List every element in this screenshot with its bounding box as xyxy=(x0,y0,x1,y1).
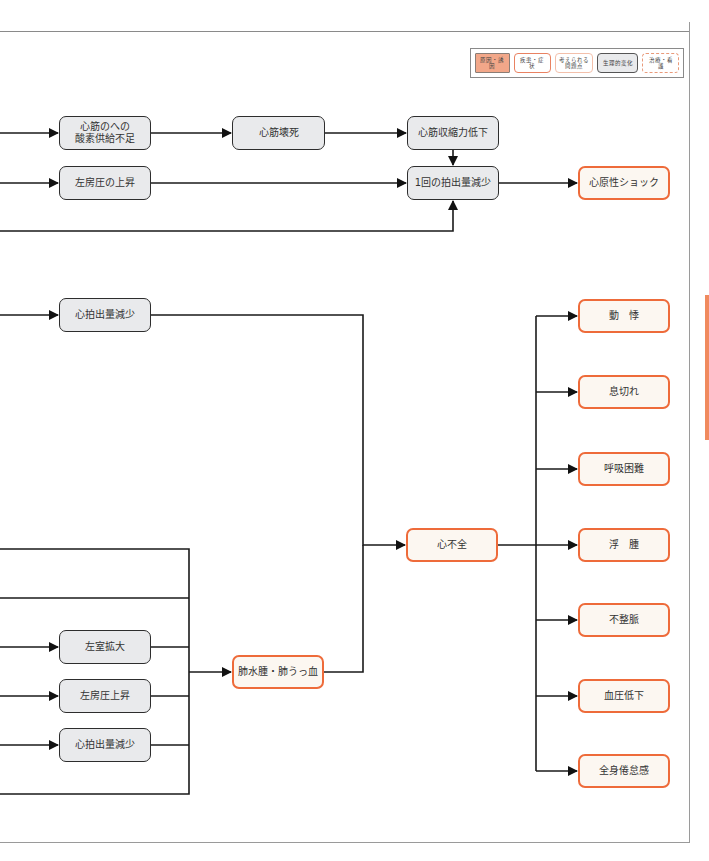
node-cardiac-output-decrease-lower: 心拍出量減少 xyxy=(59,728,151,762)
node-left-atrial-pressure-rise-lower: 左房圧上昇 xyxy=(59,679,151,713)
node-pulmonary-edema: 肺水腫・肺うっ血 xyxy=(232,655,324,689)
node-left-atrial-pressure-rise: 左房圧の上昇 xyxy=(59,166,151,200)
node-symptom-palpitation: 動 悸 xyxy=(578,299,670,333)
node-stroke-volume-decrease: 1回の拍出量減少 xyxy=(407,166,499,200)
node-lv-dilation: 左室拡大 xyxy=(59,630,151,664)
node-symptom-edema: 浮 腫 xyxy=(578,528,670,562)
node-symptom-hypotension: 血圧低下 xyxy=(578,679,670,713)
node-cardiogenic-shock: 心原性ショック xyxy=(578,166,670,200)
node-contractility-decrease: 心筋収縮力低下 xyxy=(407,116,499,150)
node-symptom-dyspnea: 呼吸困難 xyxy=(578,452,670,486)
node-myocardial-oxygen-shortage: 心筋のへの 酸素供給不足 xyxy=(59,116,151,150)
node-heart-failure: 心不全 xyxy=(406,528,498,562)
node-symptom-arrhythmia: 不整脈 xyxy=(578,603,670,637)
node-cardiac-output-decrease: 心拍出量減少 xyxy=(59,298,151,332)
node-myocardial-necrosis: 心筋壊死 xyxy=(232,116,325,150)
node-symptom-general-fatigue: 全身倦怠感 xyxy=(578,754,670,788)
node-symptom-shortness-of-breath: 息切れ xyxy=(578,375,670,409)
